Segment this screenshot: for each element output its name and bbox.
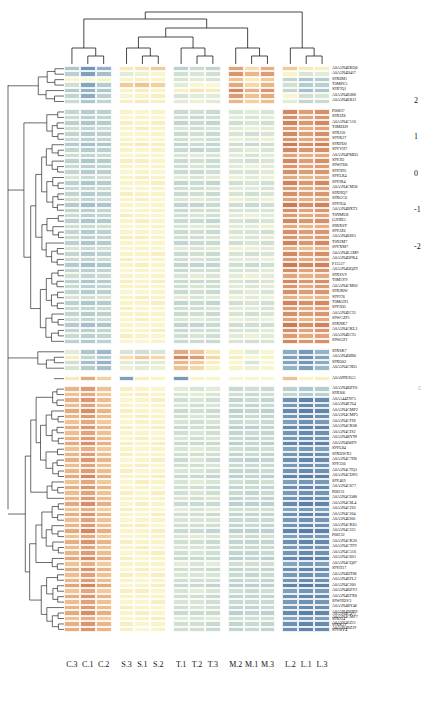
heatmap-cell[interactable] bbox=[96, 339, 112, 344]
column-labels: C.3C.1C.2S.3S.1S.2T.1T.2T.3M.2M.1M.3L.2L… bbox=[64, 660, 330, 680]
heatmap-cell[interactable] bbox=[282, 627, 298, 632]
heatmap-cell[interactable] bbox=[150, 365, 166, 370]
heatmap-block bbox=[64, 66, 112, 104]
heatmap-cell[interactable] bbox=[244, 627, 260, 632]
heatmap-cell[interactable] bbox=[260, 339, 276, 344]
heatmap-cell[interactable] bbox=[282, 376, 298, 381]
heatmap-cell[interactable] bbox=[314, 99, 330, 104]
heatmap-cell[interactable] bbox=[228, 627, 244, 632]
heatmap-cell[interactable] bbox=[134, 99, 150, 104]
heatmap-cell[interactable] bbox=[314, 365, 330, 370]
heatmap-cell[interactable] bbox=[260, 376, 276, 381]
heatmap-cell[interactable] bbox=[244, 339, 260, 344]
heatmap-cell[interactable] bbox=[205, 339, 221, 344]
heatmap-grid[interactable] bbox=[64, 66, 330, 654]
row-label: A0A5N4DFK4 bbox=[332, 256, 357, 260]
colorbar-legend: 210-1-2 bbox=[396, 68, 430, 276]
heatmap-cell[interactable] bbox=[189, 627, 205, 632]
row-label: S9YK27 bbox=[332, 136, 346, 140]
heatmap-cell[interactable] bbox=[64, 365, 80, 370]
row-label: S9WFD6 bbox=[332, 163, 348, 167]
heatmap-cell[interactable] bbox=[119, 365, 135, 370]
heatmap-cell[interactable] bbox=[134, 627, 150, 632]
heatmap-cell[interactable] bbox=[228, 99, 244, 104]
column-label: T.3 bbox=[205, 660, 221, 670]
heatmap-cell[interactable] bbox=[134, 339, 150, 344]
heatmap-block bbox=[282, 66, 330, 104]
heatmap-cell[interactable] bbox=[64, 376, 80, 381]
heatmap-cell[interactable] bbox=[244, 99, 260, 104]
heatmap-cell[interactable] bbox=[298, 99, 314, 104]
heatmap-cell[interactable] bbox=[64, 627, 80, 632]
heatmap-cell[interactable] bbox=[80, 339, 96, 344]
heatmap-cell[interactable] bbox=[80, 376, 96, 381]
heatmap-cell[interactable] bbox=[244, 376, 260, 381]
row-label: A0A5N4BY46 bbox=[332, 604, 357, 608]
heatmap-cell[interactable] bbox=[134, 365, 150, 370]
heatmap-cell[interactable] bbox=[150, 339, 166, 344]
heatmap-cell[interactable] bbox=[80, 365, 96, 370]
heatmap-cell[interactable] bbox=[298, 339, 314, 344]
heatmap-cell[interactable] bbox=[282, 339, 298, 344]
row-label: A0A5N4CTF9 bbox=[332, 544, 357, 548]
heatmap-cell[interactable] bbox=[189, 339, 205, 344]
heatmap-block bbox=[64, 109, 112, 344]
heatmap-cell[interactable] bbox=[298, 365, 314, 370]
heatmap-cell[interactable] bbox=[80, 627, 96, 632]
heatmap-row bbox=[119, 627, 167, 632]
heatmap-cell[interactable] bbox=[64, 99, 80, 104]
heatmap-cell[interactable] bbox=[260, 99, 276, 104]
heatmap-cell[interactable] bbox=[173, 339, 189, 344]
heatmap-cell[interactable] bbox=[64, 339, 80, 344]
heatmap-cell[interactable] bbox=[314, 627, 330, 632]
heatmap-cell[interactable] bbox=[150, 627, 166, 632]
row-label: A0A5N4C601 bbox=[332, 555, 356, 559]
heatmap-cell[interactable] bbox=[298, 376, 314, 381]
heatmap-cell[interactable] bbox=[173, 627, 189, 632]
heatmap-cell[interactable] bbox=[119, 339, 135, 344]
heatmap-cell[interactable] bbox=[205, 376, 221, 381]
heatmap-cell[interactable] bbox=[228, 376, 244, 381]
heatmap-cell[interactable] bbox=[96, 365, 112, 370]
row-label: S9YXM7 bbox=[332, 245, 348, 249]
heatmap-cell[interactable] bbox=[96, 99, 112, 104]
heatmap-block bbox=[228, 349, 276, 371]
heatmap-row bbox=[228, 99, 276, 104]
heatmap-cell[interactable] bbox=[173, 99, 189, 104]
heatmap-cell[interactable] bbox=[173, 376, 189, 381]
heatmap-cell[interactable] bbox=[134, 376, 150, 381]
heatmap-cell[interactable] bbox=[96, 376, 112, 381]
row-label: S9XJKW bbox=[332, 289, 348, 293]
heatmap-cell[interactable] bbox=[189, 376, 205, 381]
heatmap-cell[interactable] bbox=[96, 627, 112, 632]
heatmap-cell[interactable] bbox=[260, 627, 276, 632]
heatmap-cell[interactable] bbox=[205, 99, 221, 104]
heatmap-cell[interactable] bbox=[260, 365, 276, 370]
heatmap-cell[interactable] bbox=[119, 627, 135, 632]
heatmap-cell[interactable] bbox=[205, 627, 221, 632]
row-label: S9YL84 bbox=[332, 446, 346, 450]
heatmap-cell[interactable] bbox=[282, 99, 298, 104]
heatmap-cell[interactable] bbox=[189, 365, 205, 370]
row-label: S9XJ24 bbox=[332, 617, 345, 621]
row-label: P68232 bbox=[332, 533, 345, 537]
heatmap-cell[interactable] bbox=[228, 365, 244, 370]
heatmap-cell[interactable] bbox=[298, 627, 314, 632]
heatmap-cell[interactable] bbox=[189, 99, 205, 104]
heatmap-cell[interactable] bbox=[205, 365, 221, 370]
heatmap-row bbox=[173, 99, 221, 104]
heatmap-cell[interactable] bbox=[119, 99, 135, 104]
heatmap-cell[interactable] bbox=[150, 376, 166, 381]
heatmap-cell[interactable] bbox=[282, 365, 298, 370]
row-label: A0A5N4DIR6 bbox=[332, 354, 356, 358]
heatmap-block bbox=[173, 386, 221, 632]
heatmap-cell[interactable] bbox=[244, 365, 260, 370]
heatmap-cell[interactable] bbox=[173, 365, 189, 370]
heatmap-block bbox=[64, 349, 112, 371]
heatmap-cell[interactable] bbox=[314, 339, 330, 344]
heatmap-cell[interactable] bbox=[228, 339, 244, 344]
heatmap-cell[interactable] bbox=[80, 99, 96, 104]
heatmap-cell[interactable] bbox=[119, 376, 135, 381]
heatmap-cell[interactable] bbox=[150, 99, 166, 104]
heatmap-cell[interactable] bbox=[314, 376, 330, 381]
